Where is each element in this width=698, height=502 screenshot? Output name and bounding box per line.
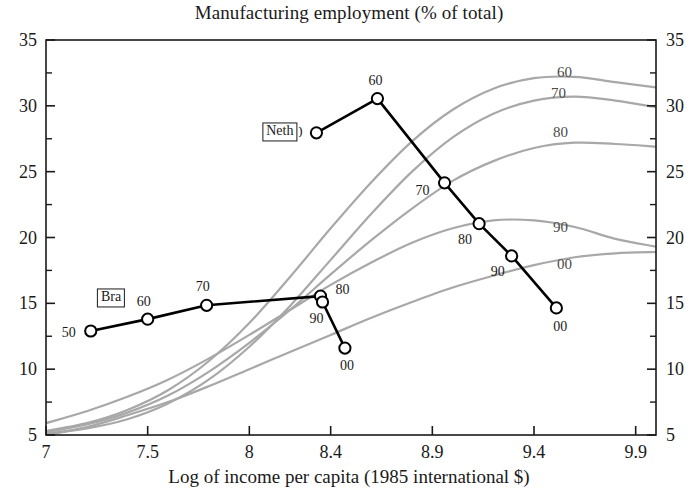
data-point-label-Neth-00: 00 bbox=[553, 319, 567, 335]
reference-curve-label-80: 80 bbox=[553, 124, 568, 141]
reference-curve-label-70: 70 bbox=[551, 84, 566, 101]
series-marker-Neth-00[interactable] bbox=[551, 302, 562, 313]
series-tag-Bra: Bra bbox=[97, 289, 125, 308]
series-marker-Neth-60[interactable] bbox=[372, 93, 383, 104]
series-marker-Bra-00[interactable] bbox=[339, 343, 350, 354]
y-axis-tick-label-right: 10 bbox=[666, 359, 684, 380]
y-axis-tick-label-left: 10 bbox=[19, 359, 37, 380]
reference-curve-label-60: 60 bbox=[557, 63, 572, 80]
data-point-label-Neth-90: 90 bbox=[491, 264, 505, 280]
y-axis-tick-label-left: 25 bbox=[19, 161, 37, 182]
x-axis-tick-label: 8.4 bbox=[319, 442, 342, 463]
chart-plot-area bbox=[0, 0, 698, 502]
y-axis-tick-label-left: 30 bbox=[19, 95, 37, 116]
reference-curve-label-00: 00 bbox=[557, 255, 572, 272]
y-axis-tick-label-left: 35 bbox=[19, 30, 37, 51]
series-marker-Bra-60[interactable] bbox=[142, 314, 153, 325]
data-point-label-Bra-70: 70 bbox=[196, 279, 210, 295]
reference-curve-00 bbox=[46, 252, 656, 435]
y-axis-tick-label-right: 25 bbox=[666, 161, 684, 182]
y-axis-tick-label-left: 20 bbox=[19, 227, 37, 248]
reference-curve-80 bbox=[46, 143, 656, 433]
series-marker-Neth-70[interactable] bbox=[439, 177, 450, 188]
data-point-label-Bra-90: 90 bbox=[310, 311, 324, 327]
y-axis-tick-label-right: 20 bbox=[666, 227, 684, 248]
y-axis-tick-label-left: 15 bbox=[19, 293, 37, 314]
series-marker-Bra-50[interactable] bbox=[85, 325, 96, 336]
data-point-label-Bra-80: 80 bbox=[336, 282, 350, 298]
data-point-label-Bra-60: 60 bbox=[137, 294, 151, 310]
data-point-label-Bra-00: 00 bbox=[340, 358, 354, 374]
y-axis-tick-label-right: 30 bbox=[666, 95, 684, 116]
series-tag-Neth: Neth bbox=[262, 123, 297, 142]
x-axis-tick-label: 9.4 bbox=[523, 442, 546, 463]
y-axis-tick-label-right: 5 bbox=[666, 425, 675, 446]
y-axis-tick-label-right: 35 bbox=[666, 30, 684, 51]
x-axis-tick-label: 7 bbox=[42, 442, 51, 463]
x-axis-tick-label: 9.9 bbox=[624, 442, 647, 463]
chart-figure: Manufacturing employment (% of total) 51… bbox=[0, 0, 698, 502]
data-point-label-Neth-60: 60 bbox=[368, 73, 382, 89]
series-line-Bra bbox=[91, 296, 345, 348]
x-axis-tick-label: 8 bbox=[245, 442, 254, 463]
data-point-label-Bra-50: 50 bbox=[62, 325, 76, 341]
x-axis-tick-label: 8.9 bbox=[421, 442, 444, 463]
series-marker-Neth-50[interactable] bbox=[311, 127, 322, 138]
series-marker-Neth-80[interactable] bbox=[474, 218, 485, 229]
y-axis-tick-label-right: 15 bbox=[666, 293, 684, 314]
reference-curve-label-90: 90 bbox=[553, 218, 568, 235]
series-marker-Bra-90[interactable] bbox=[317, 296, 328, 307]
data-point-label-Neth-80: 80 bbox=[458, 232, 472, 248]
series-marker-Bra-70[interactable] bbox=[201, 300, 212, 311]
series-group-Neth bbox=[311, 93, 562, 314]
x-axis-tick-label: 7.5 bbox=[136, 442, 159, 463]
y-axis-tick-label-left: 5 bbox=[28, 425, 37, 446]
data-point-label-Neth-70: 70 bbox=[416, 183, 430, 199]
x-axis-title: Log of income per capita (1985 internati… bbox=[0, 466, 698, 488]
series-marker-Neth-90[interactable] bbox=[506, 250, 517, 261]
